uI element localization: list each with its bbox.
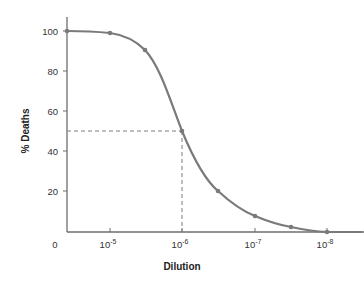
y-tick-labels: 100 80 60 40 20 — [42, 26, 58, 197]
data-point — [180, 129, 185, 134]
x-axis-title: Dilution — [163, 261, 200, 272]
chart-canvas: 100 80 60 40 20 0 10-5 10-6 10-7 10-8 Di… — [0, 0, 364, 282]
data-point — [289, 225, 294, 230]
data-point — [216, 189, 221, 194]
x-tick-1e-5: 10-5 — [100, 238, 117, 250]
y-tick-100: 100 — [42, 26, 58, 37]
data-point — [325, 230, 330, 235]
y-tick-20: 20 — [47, 186, 58, 197]
data-point — [143, 48, 148, 53]
x-tick-labels: 0 10-5 10-6 10-7 10-8 — [52, 238, 333, 250]
y-axis-title: % Deaths — [20, 108, 31, 153]
data-point — [65, 29, 70, 34]
x-tick-1e-8: 10-8 — [317, 238, 334, 250]
x-tick-1e-7: 10-7 — [245, 238, 262, 250]
data-point — [253, 214, 258, 219]
dose-response-chart: 100 80 60 40 20 0 10-5 10-6 10-7 10-8 Di… — [0, 0, 364, 282]
x-tick-1e-6: 10-6 — [172, 238, 189, 250]
y-tick-60: 60 — [47, 106, 58, 117]
ld50-guide — [67, 131, 182, 232]
y-tick-80: 80 — [47, 66, 58, 77]
y-tick-40: 40 — [47, 146, 58, 157]
x-tick-zero: 0 — [52, 239, 57, 250]
data-point — [108, 31, 113, 36]
